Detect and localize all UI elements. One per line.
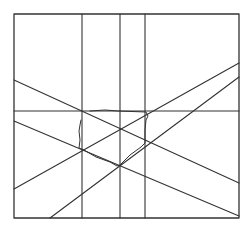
diagonal-c-line <box>14 63 239 189</box>
frame-rect <box>14 14 239 218</box>
sketch-polygon <box>79 110 148 166</box>
diagram-svg <box>0 0 251 230</box>
diagonal-b-line <box>14 121 239 216</box>
diagonal-a-line <box>14 80 239 183</box>
diagram-canvas <box>0 0 251 230</box>
